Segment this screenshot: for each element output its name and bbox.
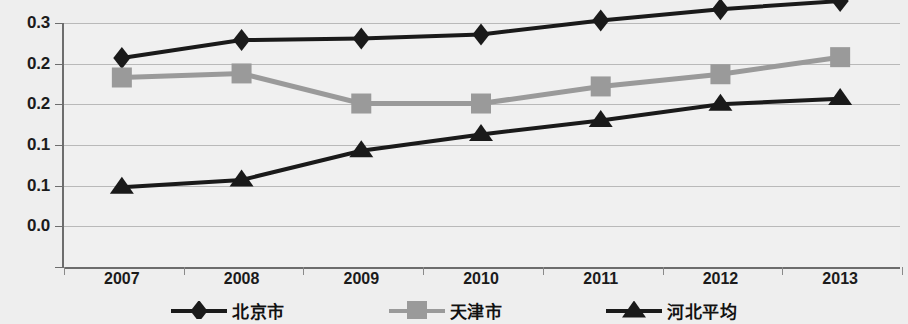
square-marker [710, 64, 730, 84]
x-axis-labels: 2007200820092010201120122013 [62, 270, 900, 294]
legend-swatch [606, 301, 662, 319]
legend-diamond-icon [171, 301, 227, 319]
x-axis-label: 2013 [822, 270, 858, 288]
legend-label: 天津市 [450, 298, 503, 323]
legend-label: 河北平均 [667, 298, 737, 323]
triangle-marker [828, 88, 852, 105]
legend-triangle-icon [606, 301, 662, 319]
diamond-marker [113, 47, 130, 69]
square-marker [471, 94, 491, 114]
x-axis-label: 2007 [104, 270, 140, 288]
square-marker [112, 67, 132, 87]
square-marker [407, 301, 427, 319]
chart-legend: 北京市天津市河北平均 [0, 296, 908, 324]
legend-item-1[interactable]: 北京市 [171, 298, 285, 323]
triangle-marker [622, 301, 646, 317]
x-axis-label: 2010 [463, 270, 499, 288]
diamond-marker [712, 0, 729, 20]
diamond-marker [353, 27, 370, 49]
legend-item-3[interactable]: 河北平均 [606, 298, 737, 323]
square-marker [591, 76, 611, 96]
diamond-marker [832, 0, 849, 12]
diamond-marker [233, 29, 250, 51]
square-marker [351, 94, 371, 114]
diamond-marker [190, 301, 207, 319]
legend-swatch [171, 301, 227, 319]
legend-swatch [389, 301, 445, 319]
square-marker [830, 47, 850, 67]
x-axis-label: 2012 [703, 270, 739, 288]
legend-label: 北京市 [232, 298, 285, 323]
series-1 [113, 0, 848, 69]
diamond-marker [592, 10, 609, 32]
legend-item-2[interactable]: 天津市 [389, 298, 503, 323]
square-marker [232, 63, 252, 83]
line-chart: 0.30.20.20.10.10.0 200720082009201020112… [0, 0, 908, 324]
legend-square-icon [389, 301, 445, 319]
diamond-marker [472, 23, 489, 45]
x-axis-label: 2011 [583, 270, 618, 288]
x-axis-label: 2008 [224, 270, 260, 288]
x-axis-label: 2009 [343, 270, 379, 288]
